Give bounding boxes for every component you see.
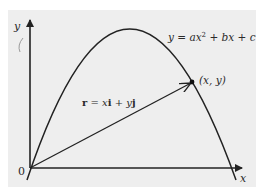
eq-plus1: + <box>206 31 221 43</box>
eq-equals: = <box>174 31 189 43</box>
eq-c: c <box>250 31 256 43</box>
vec-plus: + <box>111 97 126 108</box>
y-axis-label: y <box>13 20 21 33</box>
vector-label: r = xi + yj <box>82 97 136 108</box>
x-axis-label: x <box>240 172 247 185</box>
origin-label: 0 <box>18 165 25 178</box>
point-label: (x, y) <box>199 74 226 86</box>
eq-plus2: + <box>234 31 249 43</box>
curve-equation-label: y = ax2 + bx + c <box>167 31 256 43</box>
vec-j: j <box>131 97 136 108</box>
point-marker <box>190 80 195 85</box>
vec-equals: = <box>87 97 102 108</box>
parabola-position-vector-diagram: y x 0 y = ax2 + bx + c (x, y) r = xi + y… <box>0 0 264 196</box>
